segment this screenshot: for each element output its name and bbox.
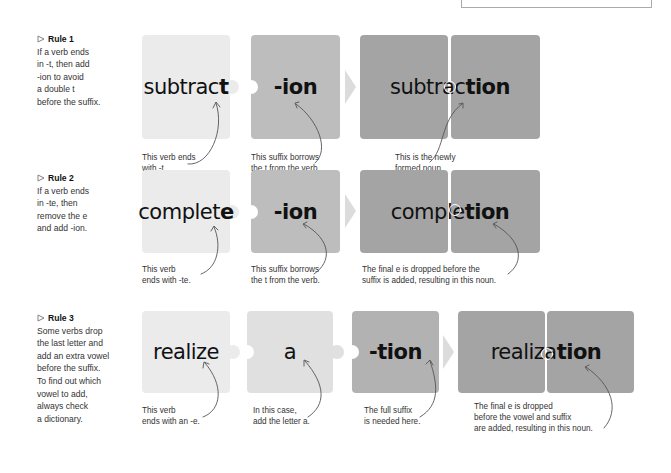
rule-3-connector-knob-2 (330, 345, 344, 359)
rule-3-join-ring (541, 348, 553, 360)
rule-3-suffix: -tion (369, 340, 422, 364)
triangle-right-icon (37, 174, 45, 182)
rule-2-verb-tile: complete (142, 170, 230, 253)
rule-1-suffix: -ion (274, 75, 317, 99)
rule-1-heading: Rule 1 (37, 33, 132, 46)
rule-3-verb-tile: realize (142, 311, 230, 393)
rule-3-suffix-tile: -tion (352, 311, 439, 393)
rule-1-suffix-tile: -ion (251, 35, 340, 139)
rule-2-caption-suffix: This suffix borrowsthe t from the verb. (251, 264, 320, 286)
rule-1-verb-tile: subtract (142, 35, 230, 139)
rule-3-caption-suffix: The full suffixis needed here. (364, 405, 420, 427)
rule-1-arrow-icon (345, 70, 356, 104)
rule-3-arrow-icon (443, 335, 454, 369)
triangle-right-icon (37, 35, 45, 43)
rule-2-verb: complete (138, 200, 233, 224)
rule-2-suffix-tile: -ion (251, 170, 340, 253)
rule-3-caption-vowel: In this case,add the letter a. (253, 405, 310, 427)
rule-2-text: Rule 2 If a verb ends in -te, then remov… (37, 172, 132, 235)
rule-2-join-ring (449, 204, 461, 216)
rule-3-caption-verb: This verbends with an -e. (142, 405, 200, 427)
rule-3-vowel: a (284, 340, 296, 364)
rule-2-connector-notch (244, 205, 258, 219)
rule-2-caption-noun: The final e is dropped before thesuffix … (362, 264, 496, 286)
rule-2-caption-verb: This verbends with -te. (142, 264, 191, 286)
rule-1-join-ring (444, 81, 456, 93)
rule-3-vowel-tile: a (247, 311, 333, 393)
rule-1-verb: subtract (144, 75, 229, 99)
rule-3-connector-notch-1 (240, 345, 254, 359)
rule-3-connector-notch-2 (345, 345, 359, 359)
rule-3-text: Rule 3 Some verbs drop the last letter a… (37, 312, 132, 425)
rule-1-text: Rule 1 If a verb ends in -t, then add -i… (37, 33, 132, 109)
rule-2-suffix: -ion (274, 200, 317, 224)
rule-3-caption-noun: The final e is droppedbefore the vowel a… (474, 401, 593, 434)
rule-3-connector-knob-1 (226, 345, 240, 359)
rule-2-heading: Rule 2 (37, 172, 132, 185)
rule-3-heading: Rule 3 (37, 312, 132, 325)
top-right-box (461, 0, 652, 8)
rule-2-arrow-icon (345, 194, 356, 228)
triangle-right-icon (37, 314, 45, 322)
rule-3-verb: realize (153, 340, 219, 364)
rule-1-connector-notch (244, 80, 258, 94)
